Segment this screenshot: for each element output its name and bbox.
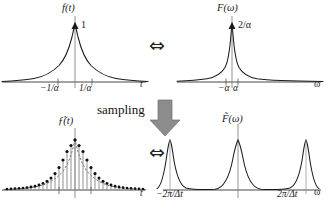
bottom-left-label-tilde-base: ƒ̃(t) bbox=[58, 115, 73, 126]
panel-bottom-left-plot bbox=[0, 118, 150, 200]
top-right-tick-label-negative: −α bbox=[218, 84, 229, 94]
bottom-left-function-label: ƒ̃(t) bbox=[58, 116, 73, 127]
top-right-tick-label-positive: α bbox=[233, 84, 238, 94]
panel-bottom-right-plot bbox=[163, 118, 327, 200]
bottom-right-tick-label-positive: 2π/Δt bbox=[277, 190, 297, 200]
top-left-function-label: f(t) bbox=[62, 3, 75, 14]
top-right-function-label: F(ω) bbox=[217, 3, 238, 14]
top-right-peak-label: 2/α bbox=[238, 20, 251, 30]
bottom-left-x-axis-label: t bbox=[140, 189, 143, 199]
equivalence-arrow-bottom: ⇔ bbox=[149, 143, 165, 162]
bottom-right-label-tilde-base: F̃(ω) bbox=[222, 113, 243, 124]
top-left-peak-label: 1 bbox=[81, 20, 86, 30]
fourier-transform-sampling-figure: f(t) 1 −1/α 1/α t F(ω) 2/α −α α ω ⇔ samp… bbox=[0, 0, 327, 216]
top-left-tick-label-positive: 1/α bbox=[79, 84, 91, 94]
top-right-x-axis-label: ω bbox=[314, 80, 320, 90]
bottom-left-stems bbox=[7, 140, 143, 190]
bottom-right-function-label: F̃(ω) bbox=[222, 114, 243, 125]
bottom-right-x-axis-label: ω bbox=[314, 188, 320, 198]
top-left-tick-label-negative: −1/α bbox=[40, 84, 59, 94]
sampling-label: sampling bbox=[97, 103, 145, 116]
top-left-x-axis-label: t bbox=[140, 80, 143, 90]
top-right-curve bbox=[177, 24, 323, 82]
bottom-right-tick-label-negative: −2π/Δt bbox=[156, 190, 183, 200]
panel-top-left-plot bbox=[0, 8, 150, 90]
equivalence-arrow-top: ⇔ bbox=[149, 36, 165, 55]
